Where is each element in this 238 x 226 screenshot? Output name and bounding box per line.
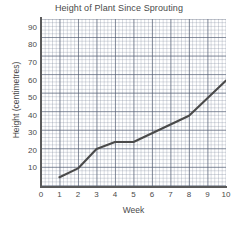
x-tick-label: 3 bbox=[90, 191, 104, 199]
x-tick-label: 10 bbox=[219, 191, 233, 199]
y-axis-line bbox=[40, 17, 42, 188]
x-tick-label: 7 bbox=[164, 191, 178, 199]
x-tick-label: 6 bbox=[145, 191, 159, 199]
x-axis-line bbox=[40, 186, 227, 188]
y-axis-title: Height (centimetres) bbox=[11, 30, 21, 170]
data-series-line bbox=[41, 19, 226, 186]
x-tick-label: 5 bbox=[127, 191, 141, 199]
x-tick-label: 0 bbox=[34, 191, 48, 199]
x-axis-title: Week bbox=[41, 205, 226, 215]
line-chart: Height of Plant Since Sprouting 10203040… bbox=[0, 0, 238, 226]
x-axis-tick-labels: 012345678910 bbox=[41, 191, 231, 203]
plot-area bbox=[41, 19, 226, 186]
x-tick-label: 2 bbox=[71, 191, 85, 199]
x-tick-label: 1 bbox=[53, 191, 67, 199]
x-tick-label: 8 bbox=[182, 191, 196, 199]
x-tick-label: 4 bbox=[108, 191, 122, 199]
x-tick-label: 9 bbox=[201, 191, 215, 199]
